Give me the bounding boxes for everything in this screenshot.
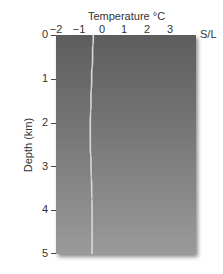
y-tick-mark bbox=[51, 79, 56, 80]
y-tick-mark bbox=[51, 253, 56, 254]
y-tick-mark bbox=[51, 210, 56, 211]
y-tick-mark bbox=[51, 123, 56, 124]
y-tick-label: 3 bbox=[34, 160, 48, 172]
y-tick-mark bbox=[51, 166, 56, 167]
y-tick-label: 0 bbox=[34, 28, 48, 40]
y-tick-label: 5 bbox=[34, 247, 48, 259]
y-axis-label: Depth (km) bbox=[22, 118, 34, 172]
y-tick-mark bbox=[51, 35, 56, 36]
y-tick-label: 4 bbox=[34, 203, 48, 215]
y-tick-label: 1 bbox=[34, 72, 48, 84]
y-tick-label: 2 bbox=[34, 116, 48, 128]
